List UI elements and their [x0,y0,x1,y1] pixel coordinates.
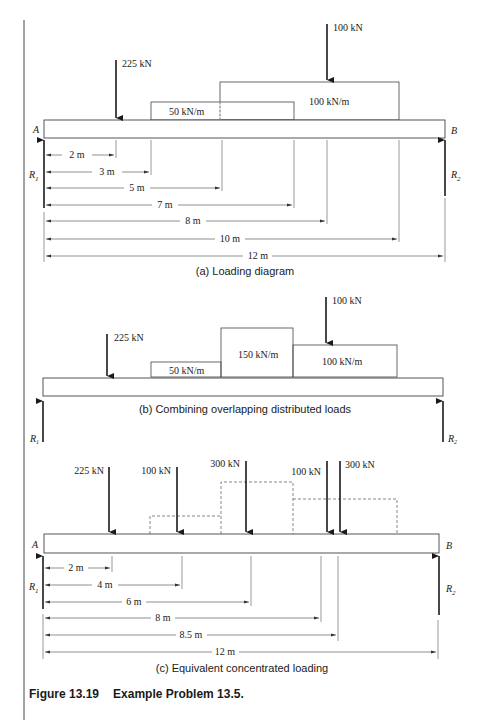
reaction-label-r1: R1 [28,581,39,595]
point-load-label: 300 kN [210,458,240,469]
panel-caption: (b) Combining overlapping distributed lo… [139,403,352,415]
support-label-a: A [32,124,40,135]
point-load-label: 225 kN [74,465,104,476]
point-load-label: 300 kN [345,459,375,470]
dimension-label: 5 m [129,182,145,193]
reaction-label-r2: R2 [447,433,457,445]
point-load-label: 100 kN [332,295,362,306]
panel-a-loading-diagram: 50 kN/m 100 kN/m A B 225 kN 100 kN R1 R2 [28,22,461,277]
dimension-label: 10 m [220,233,241,244]
dimension-label: 2 m [68,562,84,573]
panel-c-equivalent-loading: A B 225 kN 100 kN 300 kN 100 kN 300 kN R… [28,458,456,674]
figure-caption: Figure 13.19Example Problem 13.5. [29,687,244,701]
dimension-label: 12 m [248,250,269,261]
point-load-label: 225 kN [122,58,152,69]
reaction-label-r1: R1 [28,169,39,183]
distributed-load-label: 50 kN/m [169,106,205,117]
beam [44,120,445,138]
dimension-label: 7 m [157,199,173,210]
support-label-a: A [31,539,39,550]
beam [43,378,443,396]
support-label-b: B [451,125,457,136]
point-load-label: 100 kN [141,465,171,476]
point-load-label: 100 kN [333,22,363,33]
dimension-label: 3 m [99,166,115,177]
panel-b-combined-loads: 50 kN/m 150 kN/m 100 kN/m 225 kN 100 kN … [29,295,457,445]
panel-caption: (c) Equivalent concentrated loading [156,662,328,674]
dimension-label: 12 m [215,646,236,657]
beam [44,534,439,553]
reaction-label-r1: R1 [29,433,39,445]
reaction-label-r2: R2 [450,169,461,183]
dimension-label: 8 m [155,612,171,623]
distributed-load-label: 100 kN/m [322,356,363,367]
support-label-b: B [446,540,452,551]
distributed-load-label: 50 kN/m [169,365,205,376]
distributed-load-label: 100 kN/m [309,96,350,107]
beam-loading-figure: 50 kN/m 100 kN/m A B 225 kN 100 kN R1 R2 [0,0,496,724]
point-load-label: 100 kN [291,466,321,477]
dimension-label: 8 m [185,215,201,226]
point-load-label: 225 kN [114,332,144,343]
dimension-label: 6 m [126,596,142,607]
reaction-label-r2: R2 [445,583,456,597]
panel-caption: (a) Loading diagram [196,265,294,277]
distributed-load-label: 150 kN/m [238,349,279,360]
dimension-label: 8.5 m [180,629,203,640]
dimension-label: 4 m [97,579,113,590]
dimension-label: 2 m [69,149,85,160]
